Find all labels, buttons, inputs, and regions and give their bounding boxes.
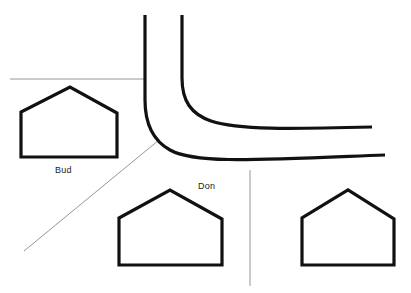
houses-group	[21, 87, 394, 265]
house-bud	[21, 87, 117, 157]
road-group	[145, 15, 385, 160]
house-unlabeled-east	[302, 190, 394, 265]
house-label-bud: Bud	[55, 165, 72, 175]
house-label-don: Don	[198, 181, 215, 191]
site-sketch-svg	[0, 0, 411, 293]
road-inner-edge	[182, 15, 372, 128]
site-sketch-canvas: Bud Don	[0, 0, 411, 293]
house-don	[119, 190, 222, 265]
